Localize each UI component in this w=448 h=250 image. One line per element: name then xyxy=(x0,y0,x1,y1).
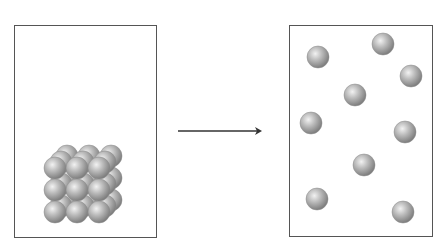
gas-particle xyxy=(372,33,394,55)
solid-particle xyxy=(66,201,88,223)
solid-particle xyxy=(88,179,110,201)
solid-particle xyxy=(44,179,66,201)
gas-particle xyxy=(400,65,422,87)
gas-particle xyxy=(300,112,322,134)
gas-particle xyxy=(307,46,329,68)
solid-particle xyxy=(44,201,66,223)
gas-particle xyxy=(344,84,366,106)
solid-particle xyxy=(66,157,88,179)
gas-particle xyxy=(392,201,414,223)
gas-particles xyxy=(300,33,422,223)
solid-particle xyxy=(44,157,66,179)
gas-particle xyxy=(353,154,375,176)
diagram-canvas xyxy=(0,0,448,250)
solid-particle xyxy=(66,179,88,201)
transition-arrow xyxy=(178,127,262,135)
solid-particle-lattice xyxy=(44,145,122,223)
solid-particle xyxy=(88,201,110,223)
gas-particle xyxy=(394,121,416,143)
solid-particle xyxy=(88,157,110,179)
gas-particle xyxy=(306,188,328,210)
